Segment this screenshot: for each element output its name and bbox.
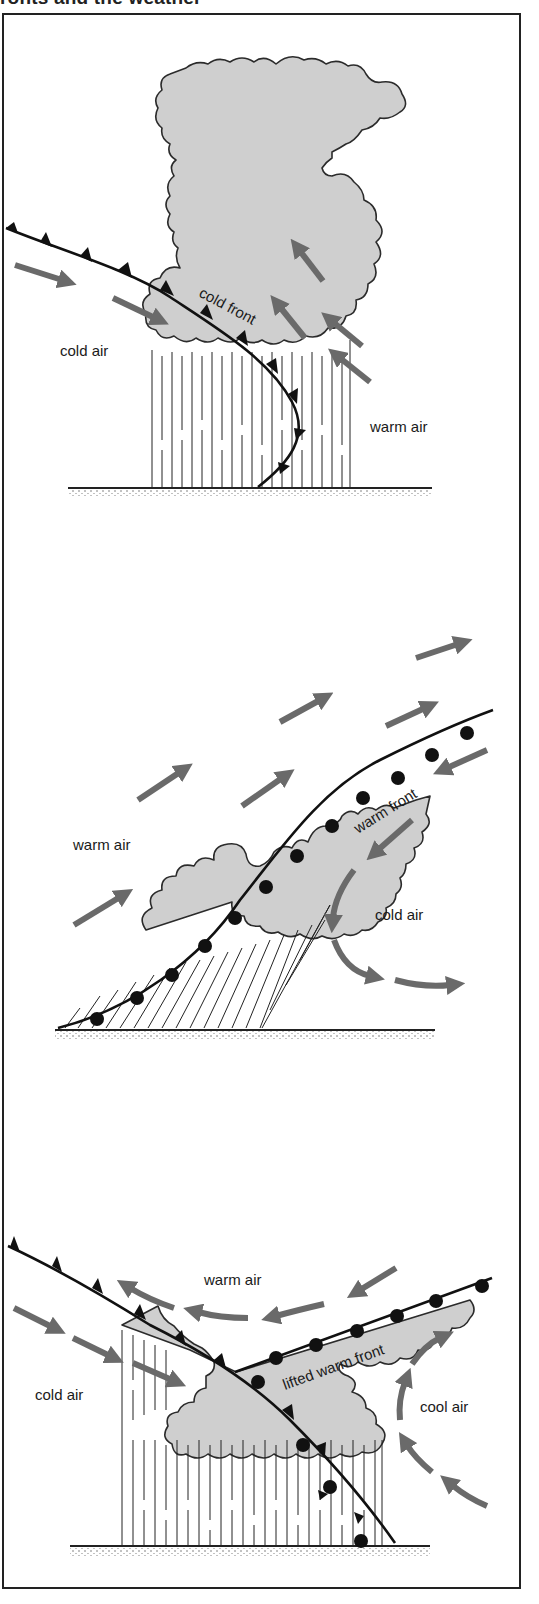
panel-warm-front: warm air cold air warm front (55, 644, 493, 1040)
panel-cold-front: cold air warm air cold front (6, 57, 432, 496)
ground (70, 1546, 430, 1556)
label-cold-air: cold air (375, 906, 423, 923)
ground (55, 1030, 435, 1040)
label-warm-air: warm air (369, 418, 428, 435)
panel-occluded-front: warm air cold air cool air lifted warm f… (8, 1236, 492, 1556)
cumulonimbus-cloud (143, 57, 406, 344)
label-cool-air: cool air (420, 1398, 468, 1415)
rain-shaft (152, 340, 350, 488)
ground (68, 488, 432, 496)
label-warm-air: warm air (203, 1271, 262, 1288)
label-warm-air: warm air (72, 836, 131, 853)
label-cold-air: cold air (60, 342, 108, 359)
fronts-diagram: cold air warm air cold front (0, 0, 539, 1604)
label-cold-air: cold air (35, 1386, 83, 1403)
